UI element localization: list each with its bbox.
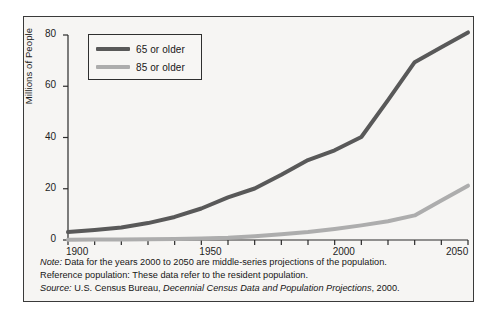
source-label: Source:: [40, 283, 72, 293]
note-line: Note: Data for the years 2000 to 2050 ar…: [40, 256, 460, 269]
y-axis-tick-label: 40: [30, 131, 56, 142]
source-year: , 2000.: [372, 283, 400, 293]
legend-item-85-or-older: 85 or older: [96, 60, 185, 74]
y-axis-tick-label: 80: [30, 28, 56, 39]
y-axis-ticks: [63, 35, 68, 240]
source-publisher: U.S. Census Bureau,: [74, 283, 160, 293]
legend-swatch-85-or-older: [96, 65, 130, 70]
y-axis-tick-label: 60: [30, 79, 56, 90]
chart-legend: 65 or older 85 or older: [88, 34, 202, 80]
legend-swatch-65-or-older: [96, 47, 130, 52]
series-line-85-or-older: [68, 186, 468, 240]
source-title: Decennial Census Data and Population Pro…: [163, 283, 371, 293]
source-line: Source: U.S. Census Bureau, Decennial Ce…: [40, 282, 460, 295]
figure-container: Millions of People 020406080 19001950200…: [0, 0, 499, 316]
y-axis-tick-label: 20: [30, 182, 56, 193]
reference-population-label: Reference population:: [40, 270, 130, 280]
legend-label-85-or-older: 85 or older: [136, 62, 185, 73]
note-text: Data for the years 2000 to 2050 are midd…: [65, 257, 387, 267]
reference-population-line: Reference population: These data refer t…: [40, 269, 460, 282]
y-axis-title: Millions of People: [23, 6, 34, 126]
reference-population-text: These data refer to the resident populat…: [132, 270, 308, 280]
legend-label-65-or-older: 65 or older: [136, 44, 185, 55]
y-axis-tick-label: 0: [30, 233, 56, 244]
note-label: Note:: [40, 257, 62, 267]
figure-notes: Note: Data for the years 2000 to 2050 ar…: [40, 256, 460, 296]
legend-item-65-or-older: 65 or older: [96, 42, 185, 56]
